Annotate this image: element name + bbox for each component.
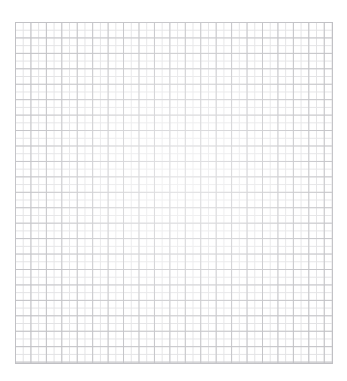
graph-paper-grid — [15, 22, 333, 364]
screenshot-canvas — [0, 0, 347, 381]
